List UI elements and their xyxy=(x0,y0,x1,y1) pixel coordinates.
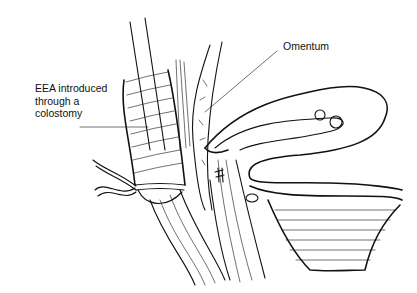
bladder xyxy=(250,186,402,271)
anatomical-illustration xyxy=(0,0,417,293)
suture-hash-marks xyxy=(215,168,258,202)
eea-stapler-shaft xyxy=(130,18,165,150)
uterus xyxy=(205,87,402,190)
omentum xyxy=(192,42,222,210)
clip xyxy=(246,194,258,202)
omentum-leader-line xyxy=(205,51,277,112)
suture-threads xyxy=(93,160,136,196)
colon-segment xyxy=(123,60,190,204)
